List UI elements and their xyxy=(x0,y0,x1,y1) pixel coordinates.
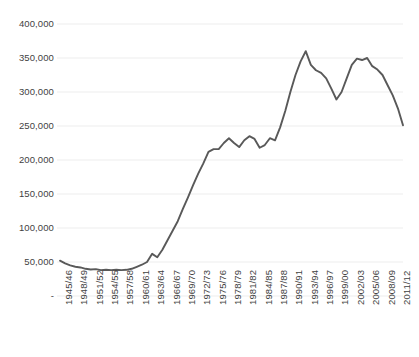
x-axis-tick-label: 1972/73 xyxy=(202,270,212,305)
x-axis-tick-label: 1945/46 xyxy=(64,270,74,305)
x-axis-tick-label: 1999/00 xyxy=(340,270,350,305)
x-axis-tick-label: 1996/97 xyxy=(325,270,335,305)
x-axis-tick-label: 1954/55 xyxy=(110,270,120,305)
line-chart: -50,000100,000150,000200,000250,000300,0… xyxy=(0,0,419,357)
x-axis-tick-label: 2011/12 xyxy=(402,271,412,305)
x-axis-tick-label: 1978/79 xyxy=(233,270,243,305)
x-axis-tick-label: 1981/82 xyxy=(248,270,258,305)
x-axis-tick-label: 1963/64 xyxy=(156,270,166,305)
x-axis-tick-label: 1966/67 xyxy=(172,270,182,305)
x-axis-tick-label: 1987/88 xyxy=(279,270,289,305)
x-axis-tick-label: 2005/06 xyxy=(371,270,381,305)
x-axis-tick-label: 1984/85 xyxy=(264,270,274,305)
x-axis-tick-label: 2002/03 xyxy=(356,270,366,305)
x-axis-tick-label: 1975/76 xyxy=(218,270,228,305)
x-axis-tick-label: 1957/58 xyxy=(125,270,135,305)
x-axis-tick-label: 1969/70 xyxy=(187,270,197,305)
x-axis-tick-label: 1951/52 xyxy=(95,270,105,305)
x-axis-tick-label: 1990/91 xyxy=(294,270,304,305)
x-axis-tick-label: 1993/94 xyxy=(310,270,320,305)
x-axis-tick-label: 1948/49 xyxy=(79,270,89,305)
x-axis: 1945/461948/491951/521954/551957/581960/… xyxy=(0,0,419,357)
x-axis-tick-label: 2008/09 xyxy=(387,270,397,305)
x-axis-tick-label: 1960/61 xyxy=(141,270,151,305)
